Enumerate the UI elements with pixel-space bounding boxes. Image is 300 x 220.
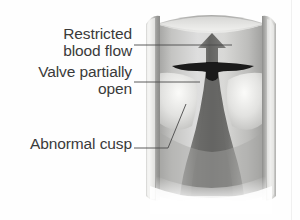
- label-valve-partially-open: Valve partially open: [0, 63, 132, 97]
- label-restricted-blood-flow-line2: blood flow: [0, 42, 132, 59]
- label-valve-partially-open-line2: open: [0, 80, 132, 97]
- label-restricted-blood-flow-line1: Restricted: [0, 25, 132, 42]
- vessel-wall-left: [146, 16, 160, 201]
- label-valve-partially-open-line1: Valve partially: [0, 63, 132, 80]
- page-border-line: [291, 0, 292, 220]
- label-abnormal-cusp-line1: Abnormal cusp: [0, 135, 132, 152]
- figure-container: Restricted blood flow Valve partially op…: [0, 0, 300, 220]
- vessel-wall-right: [262, 16, 276, 201]
- label-abnormal-cusp: Abnormal cusp: [0, 135, 132, 152]
- label-restricted-blood-flow: Restricted blood flow: [0, 25, 132, 59]
